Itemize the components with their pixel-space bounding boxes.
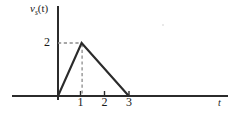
plot-canvas bbox=[0, 0, 240, 116]
y-axis-label: vs(t) bbox=[30, 3, 48, 17]
waveform-trace bbox=[58, 43, 129, 96]
waveform-figure: vs(t) t 2 1 2 3 bbox=[0, 0, 240, 116]
x-tick-label-2: 2 bbox=[98, 96, 112, 108]
x-axis-label: t bbox=[218, 98, 221, 108]
x-tick-label-1: 1 bbox=[74, 96, 88, 108]
y-axis-label-argument: (t) bbox=[38, 2, 48, 14]
x-tick-label-3: 3 bbox=[122, 96, 136, 108]
scan-artifact-speck bbox=[162, 24, 164, 26]
y-tick-label-2: 2 bbox=[44, 36, 50, 48]
